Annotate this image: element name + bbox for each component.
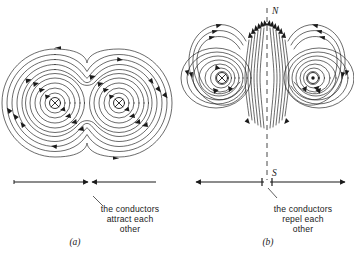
panel-a-caption: (a): [69, 237, 80, 248]
panel-a-note-line2: attract each: [107, 214, 154, 224]
panel-b-caption: (b): [262, 237, 273, 248]
panel-b-pole-north-label: N: [271, 6, 279, 16]
figure-canvas: the conductors attract each other (a): [0, 0, 354, 253]
panel-a-note-line3: other: [120, 224, 140, 234]
physics-figure: the conductors attract each other (a): [0, 0, 354, 253]
panel-b-note-line3: other: [293, 224, 313, 234]
panel-b-note-line2: repel each: [282, 214, 324, 224]
panel-a-note-line1: the conductors: [101, 204, 159, 214]
panel-b-note-line1: the conductors: [274, 204, 332, 214]
panel-b-pole-south-label: S: [272, 168, 277, 178]
